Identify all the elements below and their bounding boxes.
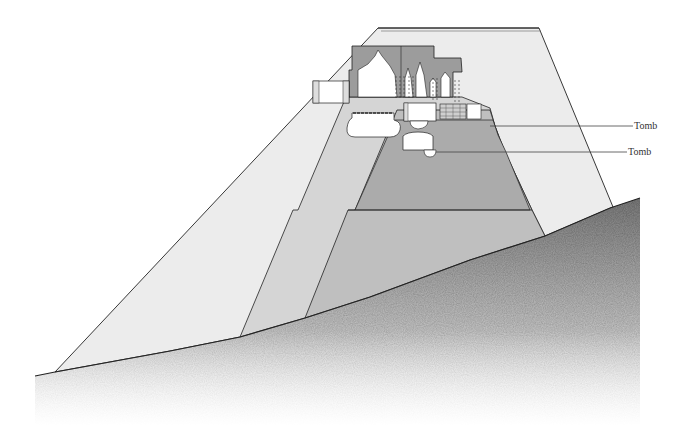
pyramid-diagram-svg bbox=[0, 0, 695, 426]
pyramid-cross-section: Tomb Tomb bbox=[0, 0, 695, 426]
tomb-label-lower: Tomb bbox=[628, 147, 651, 157]
tomb-label-upper: Tomb bbox=[634, 121, 657, 131]
side-chamber-left bbox=[313, 81, 349, 103]
rounded-chamber bbox=[347, 113, 401, 137]
